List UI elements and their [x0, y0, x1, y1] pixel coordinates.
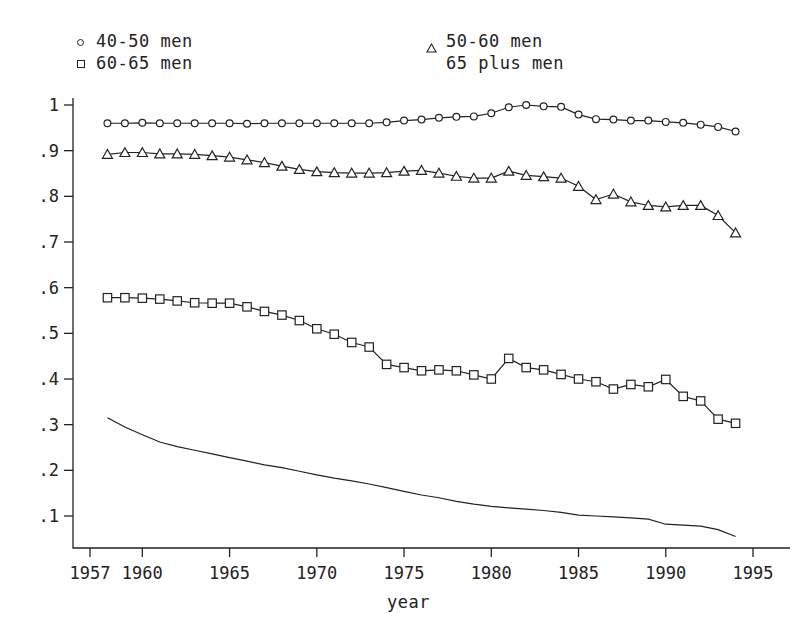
data-point-marker [156, 120, 163, 127]
data-point-marker [662, 118, 669, 125]
data-point-marker [400, 363, 408, 371]
data-point-marker [313, 120, 320, 127]
y-tick-label: .7 [39, 232, 59, 252]
data-point-marker [190, 299, 198, 307]
data-point-marker [627, 117, 634, 124]
data-point-marker [244, 120, 251, 127]
data-point-marker [331, 120, 338, 127]
x-tick-label: 1975 [384, 563, 425, 583]
data-point-marker [574, 181, 584, 190]
data-point-marker [627, 380, 635, 388]
chart-root: 40-50 men 50-60 men 60-65 men 65 plus me… [0, 0, 800, 629]
x-tick-label: 1995 [733, 563, 774, 583]
data-point-marker [103, 294, 111, 302]
x-tick-label: 1980 [471, 563, 512, 583]
data-point-marker [209, 120, 216, 127]
data-point-marker [348, 338, 356, 346]
data-point-marker [610, 116, 617, 123]
x-tick-label: 1990 [645, 563, 686, 583]
data-point-marker [609, 385, 617, 393]
data-point-marker [278, 311, 286, 319]
series-line-65-plus-men [107, 418, 735, 537]
data-point-marker [191, 120, 198, 127]
data-point-marker [156, 295, 164, 303]
data-point-marker [713, 211, 723, 220]
y-tick-label: .2 [39, 460, 59, 480]
data-point-marker [453, 113, 460, 120]
data-point-marker [366, 120, 373, 127]
data-point-marker [348, 120, 355, 127]
data-point-marker [696, 397, 704, 405]
data-point-marker [557, 370, 565, 378]
x-tick-label: 1957 [70, 563, 111, 583]
y-tick-label: .4 [39, 369, 59, 389]
y-tick-label: .9 [39, 141, 59, 161]
data-point-marker [574, 375, 582, 383]
data-point-marker [488, 110, 495, 117]
data-point-marker [679, 392, 687, 400]
data-point-marker [714, 415, 722, 423]
data-point-marker [138, 294, 146, 302]
data-point-marker [382, 360, 390, 368]
data-point-marker [104, 120, 111, 127]
data-point-marker [383, 119, 390, 126]
data-point-marker [575, 111, 582, 118]
data-point-marker [121, 120, 128, 127]
data-point-marker [296, 120, 303, 127]
data-point-marker [662, 375, 670, 383]
data-point-marker [715, 124, 722, 131]
data-point-marker [260, 307, 268, 315]
data-point-marker [208, 299, 216, 307]
x-tick-label: 1985 [558, 563, 599, 583]
data-point-marker [522, 363, 530, 371]
data-point-marker [731, 419, 739, 427]
data-point-marker [540, 103, 547, 110]
y-tick-label: .8 [39, 186, 59, 206]
data-point-marker [452, 367, 460, 375]
y-tick-label: .6 [39, 278, 59, 298]
data-point-marker [591, 195, 601, 204]
y-tick-label: .5 [39, 323, 59, 343]
data-point-marker [417, 367, 425, 375]
data-point-marker [487, 375, 495, 383]
x-axis-title: year [387, 592, 430, 612]
data-point-marker [418, 116, 425, 123]
data-point-marker [435, 366, 443, 374]
y-tick-label: 1 [49, 95, 59, 115]
data-point-marker [470, 371, 478, 379]
data-point-marker [732, 128, 739, 135]
data-point-marker [504, 166, 514, 175]
data-point-marker [523, 102, 530, 109]
data-point-marker [680, 119, 687, 126]
data-point-marker [645, 117, 652, 124]
y-tick-label: .1 [39, 506, 59, 526]
y-tick-label: .3 [39, 415, 59, 435]
data-point-marker [539, 366, 547, 374]
data-point-marker [505, 354, 513, 362]
data-point-marker [313, 325, 321, 333]
data-point-marker [470, 113, 477, 120]
data-point-marker [139, 119, 146, 126]
data-point-marker [593, 116, 600, 123]
data-point-marker [436, 114, 443, 121]
data-point-marker [295, 316, 303, 324]
data-point-marker [279, 120, 286, 127]
series-line-60-65-men [107, 298, 735, 424]
x-tick-label: 1965 [209, 563, 250, 583]
data-point-marker [401, 117, 408, 124]
data-point-marker [173, 297, 181, 305]
data-point-marker [365, 343, 373, 351]
data-point-marker [225, 299, 233, 307]
data-point-marker [261, 120, 268, 127]
x-tick-label: 1970 [296, 563, 337, 583]
x-tick-label: 1960 [122, 563, 163, 583]
data-point-marker [226, 120, 233, 127]
data-point-marker [626, 197, 636, 206]
data-point-marker [644, 383, 652, 391]
data-point-marker [505, 104, 512, 111]
data-point-marker [121, 294, 129, 302]
data-point-marker [558, 103, 565, 110]
data-point-marker [697, 121, 704, 128]
chart-plot-area: .1.2.3.4.5.6.7.8.91195719601965197019751… [0, 0, 800, 629]
data-point-marker [243, 303, 251, 311]
